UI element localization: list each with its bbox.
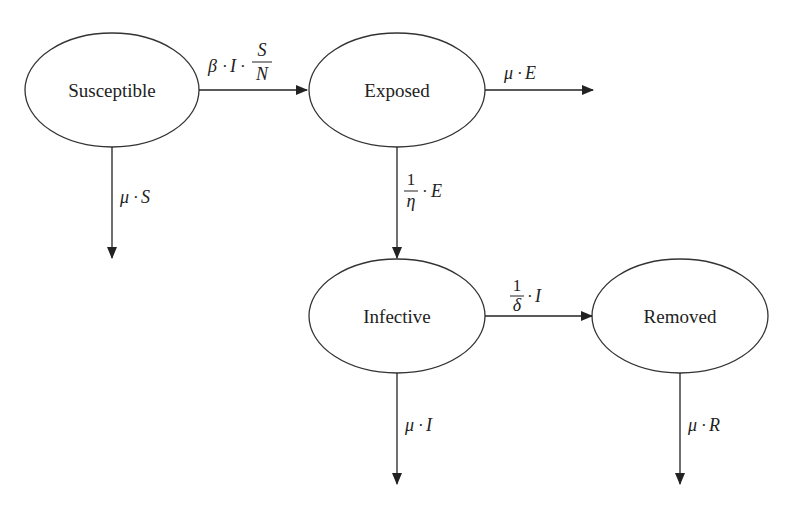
dot-operator: ·	[701, 416, 707, 435]
mu-symbol: μ	[503, 63, 513, 83]
dot-operator: ·	[422, 182, 428, 201]
exposed-label: Exposed	[364, 80, 430, 101]
fraction-numerator: S	[258, 40, 267, 60]
fraction-denominator: N	[255, 64, 269, 84]
fraction-numerator: 1	[513, 276, 522, 295]
fraction-denominator: δ	[513, 295, 522, 315]
infective-label: Infective	[363, 306, 431, 327]
node-removed: Removed	[592, 259, 768, 373]
seir-flow-diagram: Susceptible Exposed Infective Removed β …	[0, 0, 793, 509]
mu-symbol: μ	[687, 415, 697, 435]
edge-infective-out: μ · I	[397, 373, 433, 484]
caption-truncated-area	[160, 504, 620, 509]
figure-caption	[160, 504, 620, 509]
edge-exposed-out: μ · E	[485, 63, 593, 90]
dot-operator: ·	[418, 416, 424, 435]
edge-removed-out: μ · R	[680, 373, 720, 484]
var-e: E	[430, 181, 442, 201]
dot-operator: ·	[222, 57, 228, 76]
edge-susceptible-out: μ · S	[112, 147, 150, 258]
edge-susceptible-to-exposed: β · I · S N	[199, 40, 307, 90]
node-infective: Infective	[309, 259, 485, 373]
dot-operator: ·	[517, 64, 523, 83]
node-susceptible: Susceptible	[25, 33, 199, 147]
var-s: S	[141, 187, 150, 207]
edge-exposed-to-infective: 1 η · E	[397, 147, 442, 258]
beta-symbol: β	[207, 56, 217, 76]
dot-operator: ·	[240, 57, 246, 76]
dot-operator: ·	[133, 188, 139, 207]
removed-label: Removed	[644, 306, 717, 327]
var-e: E	[524, 63, 536, 83]
var-r: R	[708, 415, 720, 435]
var-i: I	[534, 286, 542, 306]
edge-infective-to-removed: 1 δ · I	[485, 276, 592, 316]
node-exposed: Exposed	[309, 33, 485, 147]
mu-symbol: μ	[404, 415, 414, 435]
var-i: I	[425, 415, 433, 435]
dot-operator: ·	[527, 287, 533, 306]
fraction-denominator: η	[407, 191, 416, 211]
var-i: I	[229, 56, 237, 76]
susceptible-label: Susceptible	[68, 80, 156, 101]
fraction-numerator: 1	[407, 170, 416, 189]
mu-symbol: μ	[119, 187, 129, 207]
